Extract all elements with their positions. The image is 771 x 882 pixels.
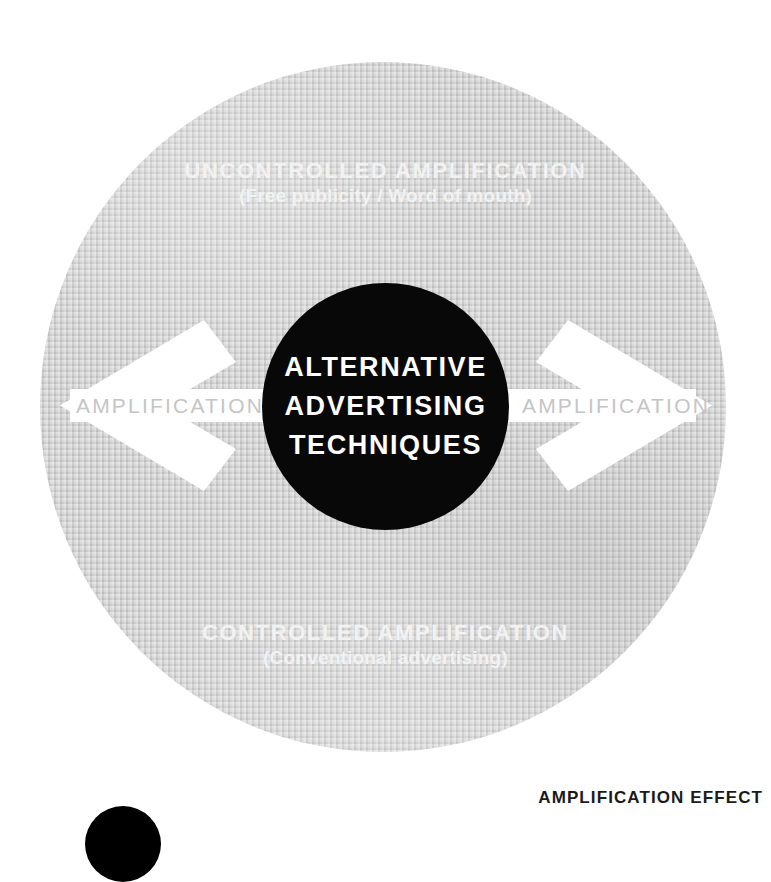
controlled-amplification-subtitle: (Conventional advertising) — [0, 646, 771, 670]
core-node: ALTERNATIVE ADVERTISING TECHNIQUES — [262, 283, 509, 530]
core-line-2: ADVERTISING — [284, 387, 486, 426]
uncontrolled-amplification-title: UNCONTROLLED AMPLIFICATION — [0, 158, 771, 183]
core-line-1: ALTERNATIVE — [284, 348, 487, 387]
core-line-3: TECHNIQUES — [289, 426, 482, 465]
controlled-amplification-title: CONTROLLED AMPLIFICATION — [0, 620, 771, 645]
legend-caption: AMPLIFICATION EFFECT — [538, 788, 763, 808]
black-circle-marker — [85, 806, 161, 882]
uncontrolled-amplification-subtitle: (Free publicity / Word of mouth) — [0, 184, 771, 208]
uncontrolled-amplification-label: UNCONTROLLED AMPLIFICATION (Free publici… — [0, 158, 771, 208]
arrow-right-label: AMPLIFICATION — [518, 390, 714, 422]
controlled-amplification-label: CONTROLLED AMPLIFICATION (Conventional a… — [0, 620, 771, 670]
arrow-left-label: AMPLIFICATION — [72, 390, 268, 422]
